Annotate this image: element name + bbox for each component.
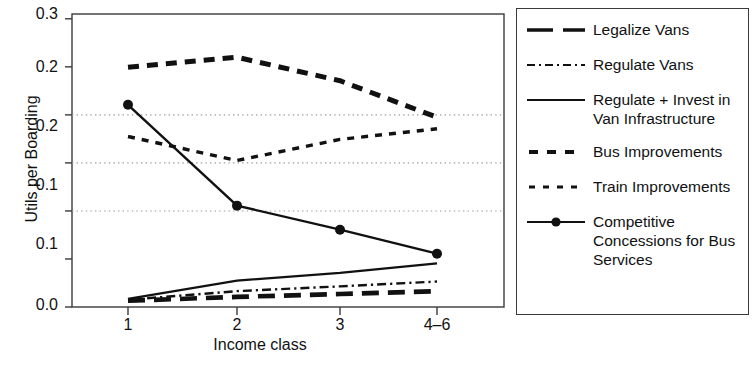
short-dash-line-icon (525, 176, 587, 198)
data-point-marker (232, 201, 242, 211)
y-tick-label: 0.0 (12, 296, 58, 314)
legend-item-label: Bus Improvements (587, 141, 722, 161)
y-tick-label: 0.1 (12, 176, 58, 194)
plot-canvas (0, 0, 512, 365)
x-tick-label: 1 (98, 316, 158, 334)
long-dash-line-icon (525, 19, 587, 41)
data-point-marker (123, 100, 133, 110)
chart-figure: Utils per Boarding Income class 0.3 0.2 … (0, 0, 755, 365)
series-line (128, 129, 437, 161)
legend-item: CompetitiveConcessions for BusServices (525, 211, 742, 269)
data-point-marker (432, 249, 442, 259)
legend-item-label: Train Improvements (587, 176, 730, 196)
plot-area: Utils per Boarding Income class 0.3 0.2 … (0, 0, 512, 365)
y-axis-title: Utils per Boarding (23, 69, 41, 249)
legend-item: Bus Improvements (525, 141, 742, 163)
chart-legend: Legalize Vans Regulate Vans Regulate + I… (516, 8, 749, 315)
legend-item: Train Improvements (525, 176, 742, 198)
series-line (128, 57, 437, 117)
x-axis-title: Income class (70, 336, 450, 354)
x-tick-label: 4–6 (407, 316, 467, 334)
x-tick-label: 3 (310, 316, 370, 334)
y-tick-label: 0.1 (12, 235, 58, 253)
y-tick-label: 0.2 (12, 117, 58, 135)
legend-item: Regulate Vans (525, 54, 742, 76)
x-tick-label: 2 (207, 316, 267, 334)
solid-line-marker-icon (525, 211, 587, 233)
y-tick-label: 0.3 (12, 5, 58, 23)
y-tick-label: 0.2 (12, 58, 58, 76)
legend-item-label: Regulate Vans (587, 54, 694, 74)
series-line (128, 105, 437, 254)
data-point-marker (335, 225, 345, 235)
dash-dot-line-icon (525, 54, 587, 76)
solid-line-icon (525, 89, 587, 111)
legend-item-label: Regulate + Invest inVan Infrastructure (587, 89, 730, 128)
legend-item-label: CompetitiveConcessions for BusServices (587, 211, 735, 269)
legend-item: Legalize Vans (525, 19, 742, 41)
thick-dash-line-icon (525, 141, 587, 163)
legend-item: Regulate + Invest inVan Infrastructure (525, 89, 742, 128)
legend-item-label: Legalize Vans (587, 19, 689, 39)
